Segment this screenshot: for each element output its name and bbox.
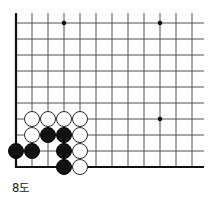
go-board[interactable] <box>0 0 216 203</box>
star-point <box>158 117 163 122</box>
figure-caption: 8도 <box>12 181 30 196</box>
board-grid <box>0 0 216 203</box>
star-point <box>62 21 67 26</box>
go-diagram: 8도 <box>0 0 216 203</box>
star-point <box>158 21 163 26</box>
